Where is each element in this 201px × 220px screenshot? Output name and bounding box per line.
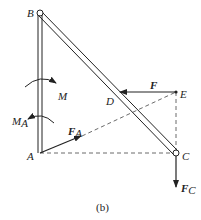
label-d: D	[105, 95, 114, 107]
dashed-line-fa-e	[82, 92, 176, 136]
label-b: B	[27, 7, 34, 19]
hinge-b-icon	[37, 10, 43, 16]
moment-m-arrow	[25, 79, 56, 87]
member-ab	[38, 15, 42, 153]
moment-ma-arrow	[28, 116, 54, 123]
figure-caption: (b)	[96, 201, 109, 214]
label-a: A	[26, 150, 34, 162]
statics-diagram: B A C D E F FA FC M MA (b)	[0, 0, 201, 220]
label-c: C	[182, 150, 190, 162]
label-e: E	[179, 88, 187, 100]
label-moment-ma: MA	[11, 115, 28, 129]
label-moment-m: M	[57, 90, 68, 102]
label-force-f: F	[149, 79, 158, 91]
label-force-fc: FC	[180, 182, 196, 196]
hinge-c-icon	[173, 150, 179, 156]
label-force-fa: FA	[67, 125, 82, 139]
